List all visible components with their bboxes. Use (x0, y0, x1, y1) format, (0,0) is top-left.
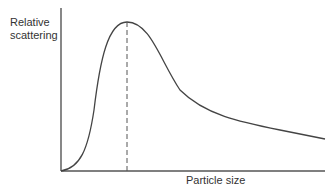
y-axis-label-line1: Relative (10, 16, 58, 29)
y-axis-label-line2: scattering (10, 29, 58, 42)
x-axis-label: Particle size (186, 174, 245, 187)
y-axis-label: Relative scattering (10, 16, 58, 42)
scattering-curve (61, 22, 325, 171)
